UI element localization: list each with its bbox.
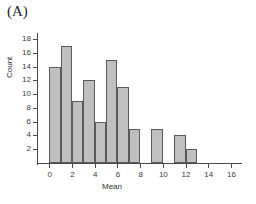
x-axis-tick-label: 16 [227, 170, 236, 179]
x-axis-tick-label: 4 [93, 170, 97, 179]
y-axis-tick-label: 6 [27, 117, 31, 126]
y-axis-tick-label: 10 [22, 89, 31, 98]
histogram-bar [83, 80, 94, 163]
plot-area [38, 35, 240, 163]
histogram-bar [95, 122, 106, 163]
y-axis-tick: 18 [33, 39, 37, 40]
y-axis-tick-label: 8 [27, 103, 31, 112]
x-axis-tick: 0 [49, 164, 50, 168]
histogram-bar [129, 129, 140, 163]
y-axis-tick-label: 14 [22, 62, 31, 71]
y-axis-tick: 16 [33, 53, 37, 54]
x-axis-tick-label: 2 [70, 170, 74, 179]
x-axis-tick: 14 [208, 164, 209, 168]
histogram-bar [61, 46, 72, 163]
x-axis-title-text: Mean [102, 182, 122, 191]
y-axis-title: Count [5, 57, 14, 78]
y-axis-tick: 10 [33, 94, 37, 95]
x-axis-tick: 4 [95, 164, 96, 168]
y-axis-tick-label: 18 [22, 34, 31, 43]
x-axis-tick: 6 [117, 164, 118, 168]
x-axis-tick-label: 12 [182, 170, 191, 179]
y-axis-tick: 4 [33, 135, 37, 136]
panel-label: (A) [7, 4, 28, 19]
x-axis-tick: 10 [163, 164, 164, 168]
x-axis-title: Mean [0, 182, 256, 191]
y-axis-tick-label: 16 [22, 48, 31, 57]
x-axis-tick-label: 8 [138, 170, 142, 179]
y-axis-tick: 6 [33, 122, 37, 123]
histogram-bar [174, 135, 185, 163]
histogram-bar [106, 60, 117, 163]
x-axis-tick: 12 [186, 164, 187, 168]
histogram-bar [72, 101, 83, 163]
histogram-bar [49, 67, 60, 163]
y-axis-tick-label: 4 [27, 130, 31, 139]
x-axis-tick-label: 6 [116, 170, 120, 179]
y-axis-tick: 2 [33, 149, 37, 150]
histogram-bar [151, 129, 162, 163]
histogram-bar [186, 149, 197, 163]
y-axis-tick-label: 2 [27, 144, 31, 153]
y-axis-tick-label: 12 [22, 75, 31, 84]
y-axis-tick: 8 [33, 108, 37, 109]
y-axis-tick: 12 [33, 80, 37, 81]
histogram-bar [117, 87, 128, 163]
histogram-figure: (A) Count Mean 2468101214161802468101214… [0, 0, 256, 204]
x-axis-tick-label: 0 [48, 170, 52, 179]
x-axis-tick-label: 14 [204, 170, 213, 179]
x-axis-tick: 2 [72, 164, 73, 168]
x-axis-tick: 8 [140, 164, 141, 168]
x-axis-tick: 16 [231, 164, 232, 168]
y-axis-tick: 14 [33, 67, 37, 68]
x-axis-tick-label: 10 [159, 170, 168, 179]
